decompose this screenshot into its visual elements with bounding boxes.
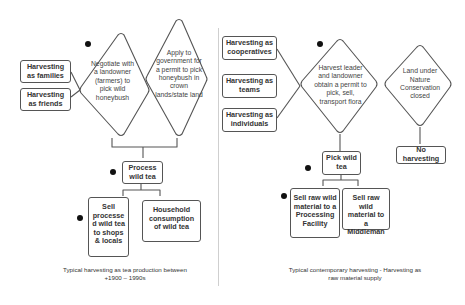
step-marker-dot (281, 193, 287, 199)
decision-negotiate: Negotiate with a landowner (farmers) to … (90, 55, 135, 107)
outcome-household: Household consumption of wild tea (142, 200, 201, 242)
panel-divider (218, 28, 219, 286)
step-marker-dot (85, 41, 91, 47)
group-box-cooperatives: Harvesting as cooperatives (222, 36, 277, 60)
step-marker-dot (77, 215, 83, 221)
step-marker-dot (305, 165, 311, 171)
pick-wild-tea-box: Pick wild tea (322, 151, 361, 175)
decision-permit: Harvest leader and landowner obtain a pe… (313, 64, 368, 106)
caption-right-line2: raw material supply (255, 274, 455, 282)
process-wild-tea-box: Process wild tea (122, 161, 163, 184)
decision-apply: Apply to government for a permit to pick… (154, 40, 204, 108)
group-box-friends: Harvesting as friends (20, 88, 71, 111)
caption-left: Typical harvesting as tea production bet… (40, 266, 210, 283)
caption-right: Typical contemporary harvesting - Harves… (255, 266, 455, 283)
step-marker-dot (317, 41, 323, 47)
outcome-sell-processed: Sell processe d wild tea to shops & loca… (88, 197, 129, 257)
caption-left-line1: Typical harvesting as tea production bet… (40, 266, 210, 274)
decision-conservation: Land under Nature Conservation closed (394, 66, 446, 102)
flowchart-canvas: Harvesting as families Harvesting as fri… (0, 0, 465, 305)
group-box-families: Harvesting as families (20, 60, 71, 83)
no-harvesting-box: No harvesting (396, 146, 446, 164)
outcome-middleman: Sell raw wild material to a Middleman (342, 188, 390, 230)
outcome-processing-facility: Sell raw wild material to a Processing F… (290, 188, 340, 238)
group-box-individuals: Harvesting as individuals (222, 108, 277, 132)
step-marker-dot (110, 169, 116, 175)
group-box-teams: Harvesting as teams (222, 74, 277, 98)
caption-left-line2: +1900 – 1990s (40, 274, 210, 282)
caption-right-line1: Typical contemporary harvesting - Harves… (255, 266, 455, 274)
